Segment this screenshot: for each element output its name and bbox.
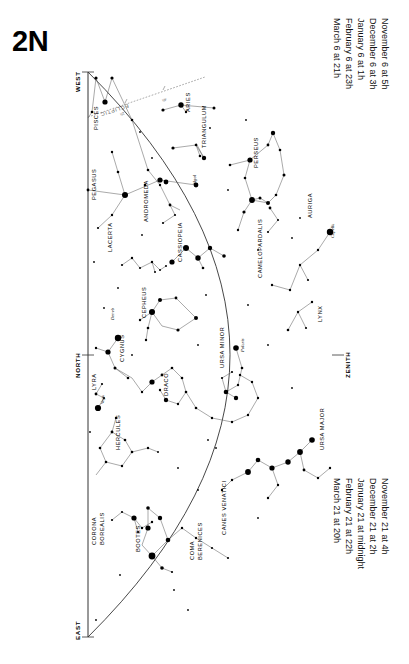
- constellation-cassiopeia: CASSIOPEIA: [177, 222, 183, 262]
- constellation-camelopardalis: CAMELOPARDALIS: [257, 219, 263, 278]
- constellation-aries: ARIES: [185, 92, 191, 112]
- constellation-canes-venatici: CANES VENATICI: [221, 480, 227, 535]
- constellation-lacerta: LACERTA: [107, 223, 113, 252]
- constellation-pisces: PISCES: [93, 106, 99, 130]
- direction-label-east: EAST: [74, 621, 81, 640]
- constellation-pegasus: PEGASUS: [91, 169, 97, 200]
- star-name-deneb: Deneb: [110, 307, 115, 321]
- constellation-triangulum: TRIANGULUM: [201, 105, 207, 148]
- direction-label-west: WEST: [74, 71, 81, 92]
- constellation-auriga: AURIGA: [307, 193, 313, 218]
- constellation-berenices: BERENICES: [197, 522, 203, 560]
- constellation-perseus: PERSEUS: [253, 137, 259, 168]
- star-name-capella: Capella: [330, 223, 335, 238]
- constellation-cepheus: CEPHEUS: [141, 287, 147, 318]
- star-name-polaris: Polaris: [240, 338, 245, 353]
- constellation-hercules: HERCULES: [115, 415, 121, 450]
- constellation-corona: CORONA: [91, 517, 97, 545]
- constellation-ursa-major: URSA MAJOR: [319, 408, 325, 450]
- direction-label-zenith: ZENITH: [344, 351, 351, 378]
- constellation-ursa-minor: URSA MINOR: [219, 327, 225, 368]
- ecliptic-hour-label: 4h: [161, 97, 167, 103]
- constellation-bootes: BOOTES: [135, 525, 141, 552]
- constellation-andromeda: ANDROMEDA: [143, 180, 149, 222]
- constellation-cygnus: CYGNUS: [119, 334, 125, 362]
- star-chart-figure: WEST NORTH EAST ZENITH ECLIPTIC 2h 4h Al…: [0, 0, 409, 664]
- constellation-draco: DRACO: [163, 373, 169, 396]
- chart-labels: WEST NORTH EAST ZENITH ECLIPTIC 2h 4h Al…: [74, 71, 351, 640]
- constellation-lines: [88, 78, 330, 572]
- constellation-lynx: LYNX: [317, 305, 323, 322]
- direction-label-north: NORTH: [74, 353, 81, 379]
- constellation-lyra: LYRA: [91, 373, 97, 390]
- star-name-algol: Algol: [192, 174, 197, 186]
- constellation-borealis: BOREALIS: [99, 512, 105, 545]
- star-name-vega: Vega: [100, 394, 105, 404]
- constellation-coma: COMA: [189, 541, 195, 560]
